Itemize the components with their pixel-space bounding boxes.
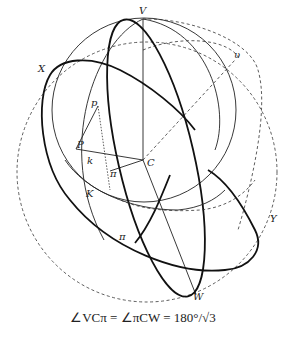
- label-X: X: [37, 63, 46, 74]
- label-Y: Y: [270, 213, 278, 224]
- label-P: P: [76, 139, 84, 150]
- outer-dashed-circle: [17, 42, 277, 302]
- spherical-diagram: V υ X p P k C π K π Y W: [0, 0, 286, 337]
- label-C: C: [147, 157, 155, 168]
- label-p: p: [91, 97, 98, 108]
- label-pi-upper: π: [109, 168, 117, 179]
- label-v: υ: [234, 49, 240, 60]
- label-W: W: [193, 291, 204, 302]
- label-k: k: [87, 155, 93, 166]
- line-c-w: [143, 160, 196, 295]
- label-V: V: [139, 5, 148, 16]
- label-K: K: [85, 188, 94, 199]
- thin-meridian-right: [143, 19, 220, 150]
- label-pi-lower: π: [118, 231, 126, 242]
- angle-formula: ∠VCπ = ∠πCW = 180°/√3: [0, 310, 286, 326]
- dotted-line-p-k: [98, 106, 110, 190]
- dashed-line-c-v: [143, 60, 235, 160]
- sphere-circle: [52, 18, 236, 202]
